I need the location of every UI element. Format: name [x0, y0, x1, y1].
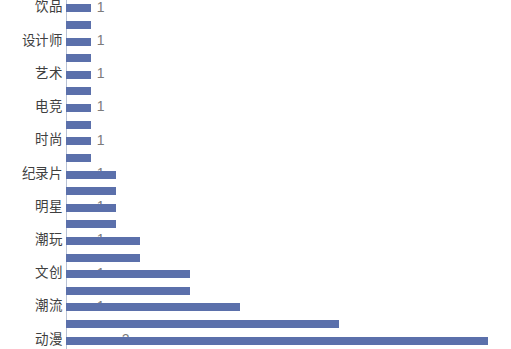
bar-row: 1	[66, 121, 511, 129]
bar	[66, 71, 91, 79]
bar	[66, 54, 91, 62]
bar	[66, 320, 339, 328]
bar-row: 2	[66, 220, 511, 228]
bar-row: 2	[66, 171, 511, 179]
bars-layer: 11111111112222335571117	[66, 0, 511, 349]
bar	[66, 154, 91, 162]
bar-row: 1	[66, 21, 511, 29]
bar-value-label: 1	[97, 0, 105, 14]
bar-row: 7	[66, 303, 511, 311]
bar	[66, 38, 91, 46]
bar-row: 1	[66, 54, 511, 62]
bar	[66, 270, 190, 278]
category-axis-label: 时尚	[35, 133, 62, 147]
bar	[66, 4, 91, 12]
bar-row: 1	[66, 104, 511, 112]
category-axis-label: 明星	[35, 200, 62, 214]
bar-row: 1	[66, 137, 511, 145]
bar-row: 3	[66, 237, 511, 245]
bar	[66, 220, 116, 228]
bar-row: 1	[66, 154, 511, 162]
bar-row: 3	[66, 254, 511, 262]
bar	[66, 337, 488, 345]
category-axis-labels: 饮品设计师艺术电竞时尚纪录片明星潮玩文创潮流动漫	[0, 0, 62, 349]
category-axis-label: 艺术	[35, 67, 62, 81]
category-axis-label: 饮品	[35, 0, 62, 14]
bar-row: 1	[66, 87, 511, 95]
bar	[66, 187, 116, 195]
bar	[66, 121, 91, 129]
bar-row: 17	[66, 337, 511, 345]
bar-row: 2	[66, 204, 511, 212]
bar	[66, 204, 116, 212]
bar	[66, 254, 140, 262]
bar-row: 1	[66, 71, 511, 79]
bar-row: 11	[66, 320, 511, 328]
category-axis-label: 潮流	[35, 299, 62, 313]
bar-chart: 饮品设计师艺术电竞时尚纪录片明星潮玩文创潮流动漫 111111111122223…	[0, 0, 511, 349]
category-axis-label: 电竞	[35, 100, 62, 114]
bar	[66, 104, 91, 112]
category-axis-label: 潮玩	[35, 233, 62, 247]
bar	[66, 237, 140, 245]
bar-row: 1	[66, 38, 511, 46]
category-axis-label: 文创	[35, 266, 62, 280]
bar	[66, 87, 91, 95]
bar	[66, 137, 91, 145]
bar-row: 1	[66, 4, 511, 12]
bar	[66, 303, 240, 311]
bar	[66, 21, 91, 29]
bar	[66, 287, 190, 295]
bar-row: 5	[66, 287, 511, 295]
category-axis-label: 设计师	[22, 34, 62, 48]
bar-row: 2	[66, 187, 511, 195]
bar	[66, 171, 116, 179]
category-axis-label: 动漫	[35, 333, 62, 347]
category-axis-label: 纪录片	[22, 167, 62, 181]
bar-row: 5	[66, 270, 511, 278]
